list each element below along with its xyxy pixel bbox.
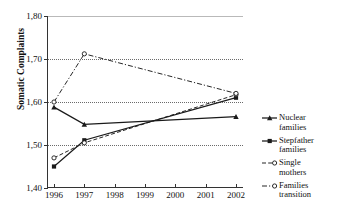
series-line	[54, 107, 236, 124]
y-tick-label: 1,80	[14, 12, 42, 21]
data-point-marker	[52, 100, 56, 104]
series-line	[54, 98, 236, 167]
series-line	[54, 95, 236, 158]
data-point-marker	[51, 104, 56, 109]
x-tick-label: 2002	[227, 191, 245, 200]
series-lines-and-markers	[47, 16, 243, 188]
legend-label: Familiestransition	[278, 181, 311, 200]
legend-label-line1: Families	[279, 180, 308, 190]
data-point-marker	[82, 52, 86, 56]
legend-label: Singlemothers	[278, 158, 306, 177]
y-tick-label: 1,50	[14, 141, 42, 150]
y-tick-label: 1,40	[14, 184, 42, 193]
y-tick-label: 1,60	[14, 98, 42, 107]
legend-label-line1: Single	[279, 157, 301, 167]
y-tick-mark	[44, 188, 48, 189]
x-tick-label: 1996	[45, 191, 63, 200]
legend-label-line2: transition	[279, 190, 311, 200]
legend-item-families-transition[interactable]: Familiestransition	[262, 181, 342, 200]
legend-label-line2: mothers	[279, 168, 306, 178]
legend: NuclearfamiliesStepfatherfamiliesSinglem…	[262, 113, 342, 203]
series-stepfather-families	[52, 96, 238, 169]
legend-item-stepfather-families[interactable]: Stepfatherfamilies	[262, 136, 342, 155]
series-families-transition	[52, 52, 238, 104]
legend-item-single-mothers[interactable]: Singlemothers	[262, 158, 342, 177]
legend-marker-filled-triangle-icon	[262, 113, 278, 123]
x-tick-label: 1999	[136, 191, 154, 200]
y-axis-tick-labels: 1,401,501,601,701,80	[14, 0, 42, 216]
legend-marker-open-circle-icon	[262, 181, 278, 191]
y-tick-label: 1,70	[14, 55, 42, 64]
legend-marker-filled-square-icon	[262, 136, 278, 146]
x-tick-label: 1998	[106, 191, 124, 200]
legend-item-nuclear-families[interactable]: Nuclearfamilies	[262, 113, 342, 132]
legend-label-line1: Stepfather	[279, 135, 314, 145]
data-point-marker	[52, 164, 56, 168]
data-point-marker	[52, 156, 56, 160]
series-line	[54, 54, 236, 102]
legend-label: Stepfatherfamilies	[278, 136, 314, 155]
legend-marker-open-circle-icon	[262, 158, 278, 168]
legend-label-line1: Nuclear	[279, 112, 306, 122]
cropped-title-remnant: · · ·	[0, 0, 342, 6]
x-tick-label: 2001	[197, 191, 215, 200]
x-axis-tick-labels: 1996199719981999200020012002	[47, 191, 243, 205]
x-tick-label: 2000	[166, 191, 184, 200]
data-point-marker	[82, 141, 86, 145]
legend-label-line2: families	[279, 123, 306, 133]
series-single-mothers	[52, 93, 238, 160]
x-tick-label: 1997	[75, 191, 93, 200]
data-point-marker	[234, 91, 238, 95]
legend-label-line2: families	[279, 145, 314, 155]
legend-label: Nuclearfamilies	[278, 113, 306, 132]
somatic-complaints-line-chart: · · · Somatic Complaints 1,401,501,601,7…	[0, 0, 342, 216]
plot-area	[47, 16, 243, 188]
